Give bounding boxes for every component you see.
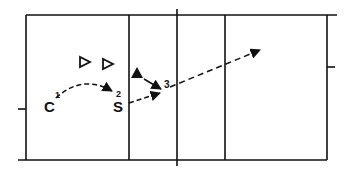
- court-diagram: C 1 S 2 3: [0, 0, 350, 174]
- hollow-opponent-2-icon: [103, 59, 113, 69]
- attack-deep-arrow: [170, 50, 260, 87]
- player-s-step: 2: [116, 89, 121, 99]
- set-s-to-3-arrow: [129, 93, 160, 103]
- pass-c-to-s-arrow: [56, 84, 112, 98]
- hollow-opponent-1-icon: [80, 57, 90, 67]
- solid-opponent-icon: [131, 67, 143, 78]
- player-c-label: C: [44, 98, 55, 115]
- player-c-step: 1: [55, 90, 60, 100]
- move-solid-to-3-arrow: [144, 79, 161, 89]
- court-lines: [18, 9, 337, 166]
- step-3-label: 3: [164, 79, 170, 90]
- player-s-label: S: [113, 98, 123, 115]
